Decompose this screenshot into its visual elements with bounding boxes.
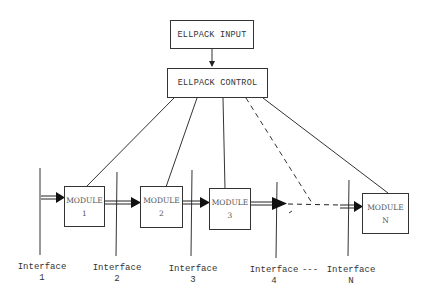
control-to-module-3-line	[223, 98, 225, 189]
flow-dashed-continuation	[288, 204, 340, 205]
flow-arrow-module-1-to-2	[105, 197, 141, 208]
control-to-module-4-dashed-line	[246, 98, 312, 203]
module-n-index: N	[382, 214, 389, 227]
flow-arrow-module-3-out	[251, 197, 287, 210]
ellpack-input-box: ELLPACK INPUT	[170, 20, 254, 49]
flow-arrow-into-module-1	[41, 192, 65, 203]
interface-4-line	[276, 182, 277, 258]
interface-4-label: Interface 4	[245, 265, 303, 287]
interface-n-line	[348, 180, 349, 256]
flow-arrow-into-module-n	[340, 201, 363, 212]
module-2-box: MODULE 2	[140, 186, 183, 228]
ellpack-control-box: ELLPACK CONTROL	[167, 68, 268, 98]
ellpack-input-label: ELLPACK INPUT	[178, 30, 247, 40]
ellpack-control-label: ELLPACK CONTROL	[178, 78, 258, 88]
module-2-label: MODULE	[143, 194, 180, 207]
module-n-box: MODULE N	[362, 193, 409, 234]
interface-3-line	[191, 170, 192, 256]
interface-2-label: Interface 2	[88, 263, 146, 285]
module-1-index: 1	[82, 207, 87, 220]
control-to-module-n-line	[263, 98, 388, 193]
module-2-index: 2	[159, 207, 164, 220]
interface-ellipsis: ---	[299, 265, 321, 276]
interface-3-label: Interface 3	[164, 264, 222, 286]
interface-2-line	[116, 172, 117, 256]
interface-1-label: Interface 1	[13, 262, 71, 284]
module-3-index: 3	[228, 209, 233, 222]
module-3-box: MODULE 3	[209, 188, 251, 230]
module-n-label: MODULE	[367, 201, 404, 214]
module-1-label: MODULE	[66, 194, 103, 207]
flow-arrow-module-2-to-3	[183, 197, 210, 208]
control-to-module-1-line	[86, 98, 174, 187]
module-3-label: MODULE	[212, 196, 249, 209]
module-1-box: MODULE 1	[64, 186, 105, 227]
interface-n-label: Interface N	[322, 265, 380, 287]
